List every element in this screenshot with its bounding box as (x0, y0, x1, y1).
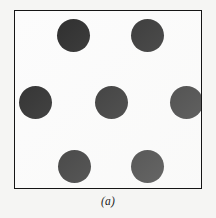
figure-caption: (a) (0, 193, 216, 209)
scatter-point-top-right (131, 19, 164, 52)
scatter-point-mid-center (95, 86, 128, 119)
figure-panel-a: (a) (0, 0, 216, 218)
scatter-point-mid-right (170, 86, 203, 119)
plot-frame (14, 10, 202, 189)
scatter-point-top-left (57, 19, 90, 52)
scatter-point-bottom-right (131, 150, 164, 183)
scatter-point-bottom-left (58, 150, 91, 183)
scatter-point-mid-left (19, 86, 52, 119)
